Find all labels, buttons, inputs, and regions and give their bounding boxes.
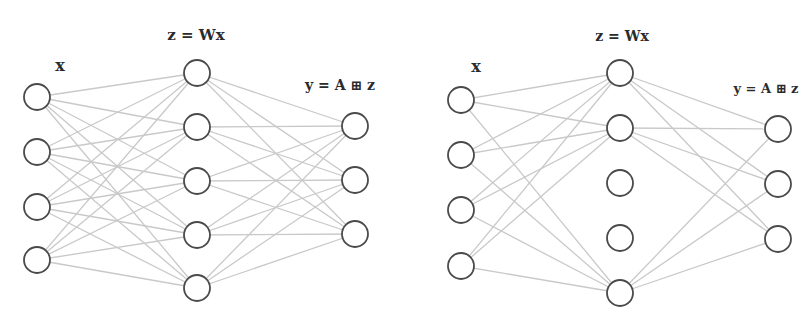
pruned-hidden-label: z = Wx: [595, 28, 649, 44]
input-node-1: [448, 142, 474, 168]
input-node-0: [24, 84, 50, 110]
edge-hidden-output: [197, 126, 355, 181]
neural-network-diagram: x z = Wx y = A ⊞ z x z = Wx y = A ⊞ z: [0, 0, 811, 328]
edge-input-hidden: [461, 73, 620, 210]
edge-input-hidden: [461, 73, 620, 100]
dense-output-label: y = A ⊞ z: [304, 77, 375, 93]
hidden-node-1: [607, 115, 633, 141]
output-node-1: [342, 167, 368, 193]
edge-hidden-output: [620, 128, 778, 239]
hidden-node-3: [184, 222, 210, 248]
edge-input-hidden: [461, 155, 620, 293]
edge-hidden-output: [620, 128, 778, 129]
dense-input-label: x: [55, 56, 65, 75]
edge-hidden-output: [620, 128, 778, 184]
hidden-node-3: [607, 225, 633, 251]
hidden-node-0: [607, 60, 633, 86]
edge-input-hidden: [37, 260, 197, 288]
edge-input-hidden: [461, 73, 620, 155]
edge-input-hidden: [461, 73, 620, 266]
output-node-1: [765, 171, 791, 197]
output-node-0: [765, 116, 791, 142]
pruned-nodes: [448, 60, 791, 306]
pruned-output-label: y = A ⊞ z: [733, 81, 799, 96]
panel-pruned-network: x z = Wx y = A ⊞ z: [448, 28, 798, 306]
input-node-2: [24, 194, 50, 220]
edge-hidden-output: [197, 126, 355, 127]
edge-hidden-output: [620, 184, 778, 293]
output-node-2: [765, 226, 791, 252]
hidden-node-2: [184, 168, 210, 194]
edge-hidden-output: [197, 234, 355, 288]
edge-hidden-output: [620, 129, 778, 293]
pruned-input-label: x: [471, 57, 481, 76]
hidden-node-4: [607, 280, 633, 306]
panel-dense-network: x z = Wx y = A ⊞ z: [24, 26, 375, 301]
hidden-node-1: [184, 114, 210, 140]
hidden-node-4: [184, 275, 210, 301]
input-node-0: [448, 87, 474, 113]
dense-hidden-label: z = Wx: [167, 26, 225, 44]
input-node-2: [448, 197, 474, 223]
output-node-0: [342, 113, 368, 139]
edge-input-hidden: [461, 266, 620, 293]
hidden-node-0: [184, 60, 210, 86]
input-node-3: [24, 247, 50, 273]
input-node-3: [448, 253, 474, 279]
edge-hidden-output: [620, 239, 778, 293]
output-node-2: [342, 221, 368, 247]
edge-input-hidden: [461, 210, 620, 293]
edge-hidden-output: [197, 126, 355, 288]
input-node-1: [24, 139, 50, 165]
hidden-node-2: [607, 170, 633, 196]
